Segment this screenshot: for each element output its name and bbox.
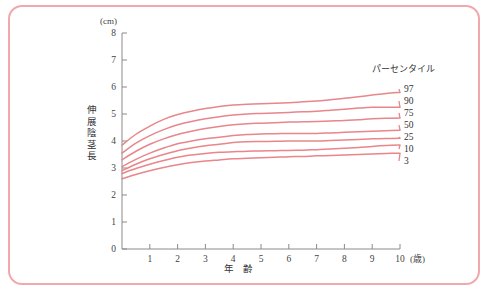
series-label-group: 9790755025103 xyxy=(404,84,414,166)
percentile-curve-90 xyxy=(122,107,400,153)
y-tick-label: 8 xyxy=(111,28,116,38)
legend-title: パーセンタイル xyxy=(372,64,435,74)
y-axis-title: 伸 展 陰 茎 長 xyxy=(85,104,99,162)
x-tick-label: 3 xyxy=(203,254,208,264)
percentile-curve-10 xyxy=(122,145,400,173)
y-tick-label: 3 xyxy=(111,163,116,173)
series-label-97: 97 xyxy=(404,84,414,94)
y-axis-unit-label: (cm) xyxy=(100,16,117,26)
y-tick-label: 5 xyxy=(111,109,116,119)
y-tick-label: 1 xyxy=(111,217,116,227)
x-tick-label: 1 xyxy=(147,254,152,264)
x-tick-label: 6 xyxy=(286,254,291,264)
x-axis-title: 年 齢 xyxy=(224,263,256,274)
series-label-50: 50 xyxy=(404,120,414,130)
percentile-line-chart: 012345678 12345678910 9790755025103 (cm)… xyxy=(0,0,494,295)
legend-leader-75 xyxy=(399,113,400,118)
x-tick-label: 9 xyxy=(370,254,375,264)
x-tick-label: 2 xyxy=(175,254,180,264)
x-axis-unit-label: (歳) xyxy=(410,253,425,264)
legend-leader-lines-group xyxy=(399,89,400,161)
legend-leader-25 xyxy=(399,137,400,138)
legend-leader-50 xyxy=(399,125,400,130)
x-tick-label: 5 xyxy=(259,254,264,264)
y-tick-label: 7 xyxy=(111,55,116,65)
percentile-curves-group xyxy=(122,92,400,178)
series-label-75: 75 xyxy=(404,108,414,118)
y-tick-label: 6 xyxy=(111,82,116,92)
x-tick-label: 8 xyxy=(342,254,347,264)
y-tick-label: 2 xyxy=(111,190,116,200)
series-label-3: 3 xyxy=(404,156,409,166)
series-label-90: 90 xyxy=(404,96,414,106)
percentile-curve-97 xyxy=(122,92,400,145)
series-label-25: 25 xyxy=(404,132,414,142)
chart-canvas: 012345678 12345678910 9790755025103 (cm)… xyxy=(0,0,494,295)
y-tick-label: 4 xyxy=(111,136,116,146)
x-tick-label: 10 xyxy=(395,254,405,264)
series-label-10: 10 xyxy=(404,144,414,154)
percentile-curve-3 xyxy=(122,153,400,179)
x-tick-group: 12345678910 xyxy=(147,244,405,264)
y-tick-label: 0 xyxy=(111,244,116,254)
y-tick-group: 012345678 xyxy=(111,28,127,254)
x-tick-label: 7 xyxy=(314,254,319,264)
legend-leader-3 xyxy=(399,153,400,161)
legend-leader-90 xyxy=(399,101,400,107)
